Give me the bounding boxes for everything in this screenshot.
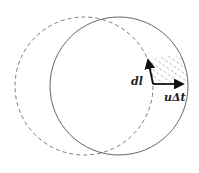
- u-delta-t-label: uΔt: [164, 91, 186, 104]
- diagram-canvas: dl uΔt: [0, 0, 199, 173]
- displaced-circle-solid: [50, 17, 188, 155]
- hatched-swept-area: [147, 55, 188, 84]
- dl-label: dl: [131, 75, 143, 88]
